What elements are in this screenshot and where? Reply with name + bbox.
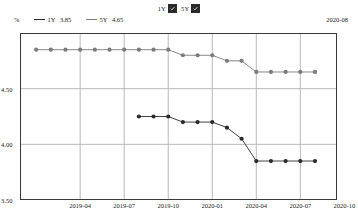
chart-series-1y xyxy=(137,114,317,163)
series-data-point[interactable] xyxy=(137,48,141,52)
x-axis-tick-label: 2019-10 xyxy=(157,202,179,209)
series-data-point[interactable] xyxy=(93,48,97,52)
x-axis-tick-label: 2020-04 xyxy=(245,202,267,209)
x-axis-tick-label: 2020-10 xyxy=(333,202,355,209)
series-data-point[interactable] xyxy=(107,48,111,52)
series-data-point[interactable] xyxy=(225,126,229,130)
x-axis-labels: 2019-042019-072019-102020-012020-042020-… xyxy=(0,202,358,216)
legend-line-swatch-5y xyxy=(86,19,97,20)
legend-value-5y: 4.65 xyxy=(112,16,123,23)
series-data-point[interactable] xyxy=(63,48,67,52)
series-data-point[interactable] xyxy=(195,53,199,57)
series-data-point[interactable] xyxy=(269,70,273,74)
series-data-point[interactable] xyxy=(181,53,185,57)
as-of-date-label: 2020-08 xyxy=(326,16,348,23)
series-data-point[interactable] xyxy=(181,120,185,124)
legend-line-swatch-1y xyxy=(34,19,45,20)
chart-frame xyxy=(21,34,337,200)
series-data-point[interactable] xyxy=(151,48,155,52)
legend-item-5y[interactable]: 5Y 4.65 xyxy=(86,16,123,23)
series-data-point[interactable] xyxy=(284,159,288,163)
series-data-point[interactable] xyxy=(254,159,258,163)
series-data-point[interactable] xyxy=(210,53,214,57)
chart-series-layer xyxy=(34,48,317,164)
series-data-point[interactable] xyxy=(240,137,244,141)
series-line xyxy=(139,117,315,162)
legend-item-1y[interactable]: 1Y 3.85 xyxy=(34,16,71,23)
series-toggle-5y-label: 5Y xyxy=(181,5,189,12)
series-data-point[interactable] xyxy=(137,114,141,118)
series-toggle-5y[interactable]: 5Y xyxy=(181,4,200,13)
series-data-point[interactable] xyxy=(166,114,170,118)
y-axis-tick-label: 4.50 xyxy=(1,85,12,92)
series-data-point[interactable] xyxy=(78,48,82,52)
series-data-point[interactable] xyxy=(298,70,302,74)
x-axis-tick-label: 2019-07 xyxy=(113,202,135,209)
checkbox-checked-icon[interactable] xyxy=(191,4,200,13)
checkbox-checked-icon[interactable] xyxy=(168,4,177,13)
series-toggle-1y[interactable]: 1Y xyxy=(158,4,177,13)
series-data-point[interactable] xyxy=(284,70,288,74)
series-data-point[interactable] xyxy=(151,114,155,118)
chart-plot-area xyxy=(20,33,337,200)
y-axis-labels: 4.504.003.50 xyxy=(0,33,20,200)
series-data-point[interactable] xyxy=(269,159,273,163)
legend-label-1y: 1Y xyxy=(48,16,56,23)
series-toggle-bar: 1Y 5Y xyxy=(0,2,358,14)
series-data-point[interactable] xyxy=(166,48,170,52)
x-axis-tick-label: 2020-07 xyxy=(289,202,311,209)
series-data-point[interactable] xyxy=(240,59,244,63)
x-axis-tick-label: 2020-01 xyxy=(201,202,223,209)
series-data-point[interactable] xyxy=(122,48,126,52)
legend-row: % 1Y 3.85 5Y 4.65 2020-08 xyxy=(0,16,358,28)
series-data-point[interactable] xyxy=(49,48,53,52)
series-line xyxy=(36,50,315,72)
x-axis-tick-label: 2019-04 xyxy=(69,202,91,209)
chart-gridlines xyxy=(21,34,337,200)
series-data-point[interactable] xyxy=(210,120,214,124)
y-axis-tick-label: 4.00 xyxy=(1,141,12,148)
legend-label-5y: 5Y xyxy=(100,16,108,23)
series-data-point[interactable] xyxy=(313,70,317,74)
series-data-point[interactable] xyxy=(34,48,38,52)
series-data-point[interactable] xyxy=(298,159,302,163)
series-data-point[interactable] xyxy=(254,70,258,74)
series-toggle-1y-label: 1Y xyxy=(158,5,166,12)
series-data-point[interactable] xyxy=(313,159,317,163)
legend-value-1y: 3.85 xyxy=(60,16,71,23)
y-axis-unit-label: % xyxy=(14,16,19,23)
line-chart-svg xyxy=(20,33,337,200)
chart-series-5y xyxy=(34,48,317,74)
series-data-point[interactable] xyxy=(195,120,199,124)
series-data-point[interactable] xyxy=(225,59,229,63)
